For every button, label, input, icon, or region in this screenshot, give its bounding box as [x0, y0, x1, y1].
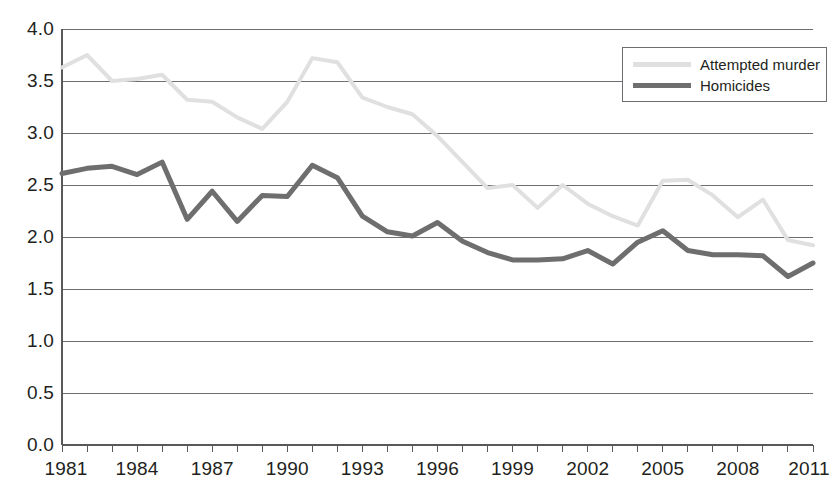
- x-tick-label: 2011: [788, 458, 830, 480]
- legend-item-homicides: Homicides: [633, 75, 826, 96]
- x-tick-label: 1987: [191, 458, 234, 480]
- legend-item-attempted-murder: Attempted murder: [633, 54, 826, 75]
- x-tick-label: 1996: [416, 458, 459, 480]
- legend-swatch-homicides: [633, 83, 691, 88]
- legend-label-attempted-murder: Attempted murder: [700, 57, 820, 72]
- legend-label-homicides: Homicides: [700, 78, 770, 93]
- x-tick-label: 1981: [44, 458, 87, 480]
- x-tick-label: 2008: [716, 458, 759, 480]
- x-tick-label: 1990: [266, 458, 309, 480]
- line-chart: 0.00.51.01.52.02.53.03.54.0 198119841987…: [0, 0, 836, 489]
- x-tick-label: 2005: [641, 458, 684, 480]
- legend-swatch-attempted-murder: [633, 62, 691, 67]
- x-tick-label: 2002: [566, 458, 609, 480]
- chart-legend: Attempted murder Homicides: [622, 47, 827, 102]
- x-tick-label: 1984: [116, 458, 159, 480]
- x-tick-label: 1999: [491, 458, 534, 480]
- x-tick-label: 1993: [341, 458, 384, 480]
